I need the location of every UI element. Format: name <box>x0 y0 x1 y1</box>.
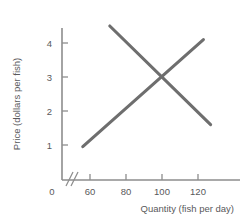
x-tick-label-120: 120 <box>190 186 206 197</box>
origin-label-0: 0 <box>49 186 54 197</box>
x-axis-ticks <box>90 174 198 180</box>
supply-demand-chart: 4 3 2 1 0 60 80 100 120 Quantity (fish p… <box>0 0 248 221</box>
axis-break-mark <box>66 172 78 186</box>
x-axis-title: Quantity (fish per day) <box>141 203 234 214</box>
y-tick-label-1: 1 <box>47 140 52 151</box>
y-tick-label-3: 3 <box>47 72 52 83</box>
x-tick-label-60: 60 <box>85 186 96 197</box>
x-tick-label-100: 100 <box>154 186 170 197</box>
y-tick-label-2: 2 <box>47 106 52 117</box>
y-axis-ticks <box>62 43 68 145</box>
chart-canvas: 4 3 2 1 0 60 80 100 120 Quantity (fish p… <box>0 0 248 221</box>
x-tick-label-80: 80 <box>121 186 132 197</box>
y-axis-title: Price (dollars per fish) <box>11 58 22 150</box>
supply-curve <box>83 40 204 147</box>
y-tick-label-4: 4 <box>47 38 52 49</box>
